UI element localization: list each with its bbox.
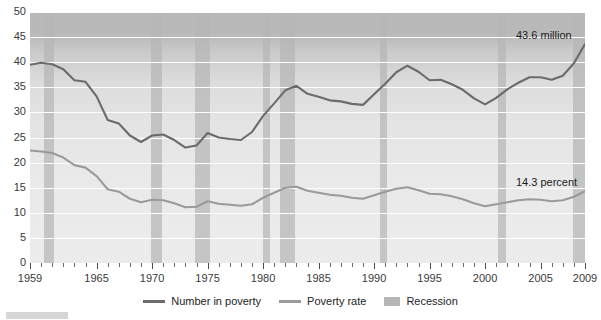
y-axis-tick-label: 45 [2,31,26,42]
x-axis-major-tick [541,263,542,269]
y-axis-tick-label: 5 [2,232,26,243]
x-axis-minor-tick [407,263,408,267]
x-axis-minor-tick [52,263,53,267]
x-axis-major-tick [585,263,586,269]
x-axis: 1959196519701975198019851990199520002005… [30,263,586,293]
x-axis-minor-tick [163,263,164,267]
plot-area [30,12,585,263]
x-axis-tick-label: 1959 [18,272,42,284]
legend-swatch-line [143,300,165,303]
poverty-chart-figure: 05101520253035404550 43.6 million14.3 pe… [0,0,601,320]
poverty-rate-line [30,151,585,208]
x-axis-tick-label: 2009 [573,272,597,284]
y-axis-tick-label: 35 [2,81,26,92]
x-axis-minor-tick [119,263,120,267]
y-axis-tick-label: 15 [2,182,26,193]
legend-label: Number in poverty [171,295,261,307]
y-axis-tick-label: 0 [2,257,26,268]
x-axis-major-tick [374,263,375,269]
number-in-poverty-end-label: 43.6 million [516,29,572,41]
x-axis-major-tick [97,263,98,269]
x-axis-tick-label: 1985 [306,272,330,284]
x-axis-minor-tick [496,263,497,267]
series-svg [30,12,585,263]
x-axis-minor-tick [419,263,420,267]
x-axis-minor-tick [552,263,553,267]
x-axis-tick-label: 2005 [528,272,552,284]
x-axis-minor-tick [296,263,297,267]
x-axis-tick-label: 1990 [362,272,386,284]
x-axis-minor-tick [574,263,575,267]
x-axis-minor-tick [341,263,342,267]
x-axis-minor-tick [274,263,275,267]
x-axis-major-tick [208,263,209,269]
legend-swatch-line [279,300,301,303]
x-axis-minor-tick [441,263,442,267]
x-axis-minor-tick [396,263,397,267]
legend-label: Recession [406,295,457,307]
number-in-poverty-line [30,44,585,147]
x-axis-minor-tick [452,263,453,267]
x-axis-minor-tick [330,263,331,267]
x-axis-tick-label: 1980 [251,272,275,284]
legend-swatch-band [384,297,400,306]
x-axis-minor-tick [230,263,231,267]
y-axis-tick-label: 10 [2,207,26,218]
x-axis-tick-label: 2000 [473,272,497,284]
y-axis-tick-label: 40 [2,56,26,67]
legend-item-recession: Recession [384,295,457,307]
x-axis-tick-label: 1965 [84,272,108,284]
x-axis-minor-tick [385,263,386,267]
series-layer [30,12,585,263]
y-axis-tick-label: 20 [2,157,26,168]
x-axis-major-tick [430,263,431,269]
x-axis-major-tick [485,263,486,269]
legend-item-poverty-rate: Poverty rate [279,295,366,307]
legend: Number in poverty Poverty rate Recession [0,292,601,310]
x-axis-minor-tick [108,263,109,267]
x-axis-tick-label: 1995 [417,272,441,284]
poverty-rate-end-label: 14.3 percent [516,176,577,188]
x-axis-minor-tick [219,263,220,267]
x-axis-minor-tick [507,263,508,267]
x-axis-minor-tick [285,263,286,267]
x-axis-minor-tick [463,263,464,267]
x-axis-major-tick [263,263,264,269]
x-axis-minor-tick [474,263,475,267]
x-axis-minor-tick [252,263,253,267]
y-axis-tick-label: 25 [2,132,26,143]
x-axis-tick-label: 1970 [140,272,164,284]
x-axis-minor-tick [185,263,186,267]
legend-item-number-in-poverty: Number in poverty [143,295,261,307]
y-axis-tick-label: 30 [2,106,26,117]
x-axis-minor-tick [63,263,64,267]
footer-bar [6,312,68,319]
x-axis-minor-tick [74,263,75,267]
cropped-top-text [0,0,601,5]
x-axis-minor-tick [197,263,198,267]
x-axis-minor-tick [308,263,309,267]
x-axis-minor-tick [563,263,564,267]
x-axis-minor-tick [41,263,42,267]
x-axis-minor-tick [86,263,87,267]
x-axis-minor-tick [518,263,519,267]
y-axis-tick-label: 50 [2,6,26,17]
x-axis-major-tick [319,263,320,269]
x-axis-tick-label: 1975 [195,272,219,284]
x-axis-major-tick [30,263,31,269]
x-axis-minor-tick [352,263,353,267]
legend-label: Poverty rate [307,295,366,307]
x-axis-minor-tick [241,263,242,267]
x-axis-major-tick [152,263,153,269]
x-axis-minor-tick [363,263,364,267]
y-axis: 05101520253035404550 [0,0,26,280]
x-axis-minor-tick [530,263,531,267]
x-axis-minor-tick [141,263,142,267]
x-axis-minor-tick [130,263,131,267]
x-axis-minor-tick [174,263,175,267]
